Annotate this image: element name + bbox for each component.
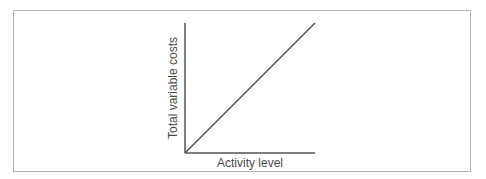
- chart-plot-area: [0, 0, 486, 179]
- total-variable-cost-line: [185, 23, 315, 153]
- y-axis-label: Total variable costs: [166, 37, 180, 139]
- x-axis-label: Activity level: [217, 156, 283, 170]
